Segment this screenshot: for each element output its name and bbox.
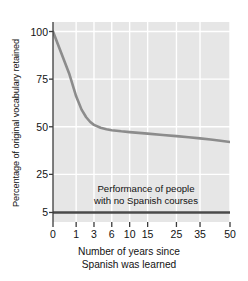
x-axis-title-line2: Spanish was learned bbox=[24, 259, 234, 272]
y-tick-label: 100 bbox=[2, 26, 48, 38]
x-tick-label: 25 bbox=[171, 228, 183, 240]
x-tick-label: 10 bbox=[124, 228, 136, 240]
x-tick-label: 1 bbox=[73, 228, 79, 240]
baseline-annotation-line1: Performance of people bbox=[62, 183, 230, 195]
x-axis-title-line1: Number of years since bbox=[24, 246, 234, 259]
x-axis-ticks bbox=[53, 222, 230, 227]
baseline-annotation-line2: with no Spanish courses bbox=[62, 195, 230, 207]
forgetting-curve-chart: Percentage of original vocabulary retain… bbox=[0, 0, 248, 281]
y-tick-label: 50 bbox=[2, 121, 48, 133]
x-tick-label: 3 bbox=[91, 228, 97, 240]
x-tick-label: 6 bbox=[109, 228, 115, 240]
x-tick-label: 35 bbox=[194, 228, 206, 240]
y-tick-label: 5 bbox=[2, 206, 48, 218]
y-tick-label: 75 bbox=[2, 73, 48, 85]
y-tick-label: 25 bbox=[2, 168, 48, 180]
x-tick-label: 50 bbox=[224, 228, 236, 240]
x-tick-label: 15 bbox=[142, 228, 154, 240]
baseline-annotation: Performance of people with no Spanish co… bbox=[62, 183, 230, 206]
x-tick-label: 0 bbox=[50, 228, 56, 240]
x-axis-title: Number of years since Spanish was learne… bbox=[24, 246, 234, 271]
